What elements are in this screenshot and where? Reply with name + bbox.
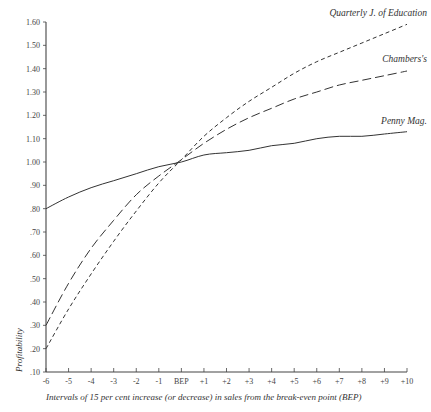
y-tick-label: .50	[30, 275, 40, 284]
axes: .10.20.30.40.50.60.70.80.901.001.101.201…	[26, 18, 413, 386]
y-tick-label: .40	[30, 298, 40, 307]
series-line-2	[46, 132, 407, 209]
y-tick-label: .60	[30, 251, 40, 260]
series-label: Quarterly J. of Education	[329, 8, 427, 18]
x-tick-label: +6	[312, 377, 321, 386]
y-axis-title: Profitability	[14, 328, 24, 373]
y-tick-label: 1.20	[26, 111, 40, 120]
x-tick-label: +10	[401, 377, 414, 386]
x-tick-label: -6	[43, 377, 50, 386]
y-tick-label: .70	[30, 228, 40, 237]
x-tick-label: +5	[290, 377, 299, 386]
x-tick-label: BEP	[174, 377, 189, 386]
series-lines	[46, 24, 407, 348]
y-tick-label: 1.10	[26, 135, 40, 144]
y-tick-label: 1.30	[26, 88, 40, 97]
x-tick-label: -3	[110, 377, 117, 386]
y-tick-label: 1.40	[26, 65, 40, 74]
x-tick-label: +2	[222, 377, 231, 386]
y-tick-label: 1.00	[26, 158, 40, 167]
x-tick-label: +4	[267, 377, 276, 386]
y-tick-label: 1.60	[26, 18, 40, 27]
y-tick-label: .80	[30, 205, 40, 214]
y-tick-label: .30	[30, 321, 40, 330]
x-tick-label: +7	[335, 377, 344, 386]
y-tick-label: .20	[30, 345, 40, 354]
y-tick-label: .10	[30, 368, 40, 377]
x-tick-label: -5	[65, 377, 72, 386]
x-tick-label: +3	[245, 377, 254, 386]
x-tick-label: -4	[88, 377, 95, 386]
x-axis-title: Intervals of 15 per cent increase (or de…	[45, 392, 362, 402]
profitability-chart: .10.20.30.40.50.60.70.80.901.001.101.201…	[0, 0, 431, 412]
y-tick-label: .90	[30, 181, 40, 190]
series-label: Chambers's	[382, 54, 427, 64]
x-tick-label: -1	[155, 377, 162, 386]
x-tick-label: +8	[358, 377, 367, 386]
x-tick-label: +1	[200, 377, 209, 386]
y-tick-label: 1.50	[26, 41, 40, 50]
series-labels: Quarterly J. of EducationChambers'sPenny…	[329, 8, 427, 125]
series-label: Penny Mag.	[380, 116, 427, 126]
x-tick-label: -2	[133, 377, 140, 386]
series-line-1	[46, 71, 407, 325]
x-tick-label: +9	[380, 377, 389, 386]
series-line-0	[46, 24, 407, 348]
